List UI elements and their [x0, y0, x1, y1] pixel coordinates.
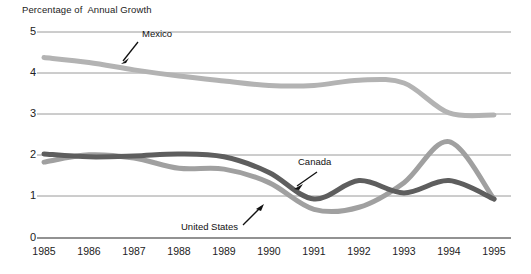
- mexico-arrow-shaft: [123, 42, 138, 61]
- annotation-label-mexico: Mexico: [142, 28, 172, 39]
- plot-area: [0, 0, 531, 274]
- annotation-arrows: [121, 42, 317, 225]
- gridlines: [37, 32, 511, 238]
- canada-arrow-shaft: [297, 172, 317, 186]
- annotation-label-united-states: United States: [181, 221, 238, 232]
- series-line-united-states: [44, 141, 494, 211]
- annotation-label-canada: Canada: [298, 156, 331, 167]
- data-series-layer: [44, 58, 494, 212]
- line-chart: Percentage of Annual Growth 5 4 3 2 1 0 …: [0, 0, 531, 274]
- series-line-mexico: [44, 58, 494, 116]
